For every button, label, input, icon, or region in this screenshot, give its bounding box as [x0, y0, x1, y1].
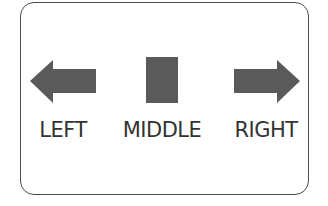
arrow-right-icon — [234, 60, 300, 103]
arrow-left-icon — [30, 60, 96, 103]
label-left: LEFT — [39, 118, 87, 142]
label-right: RIGHT — [234, 118, 297, 142]
diagram-shapes — [0, 0, 328, 206]
label-middle: MIDDLE — [123, 118, 202, 142]
middle-block — [146, 57, 178, 103]
